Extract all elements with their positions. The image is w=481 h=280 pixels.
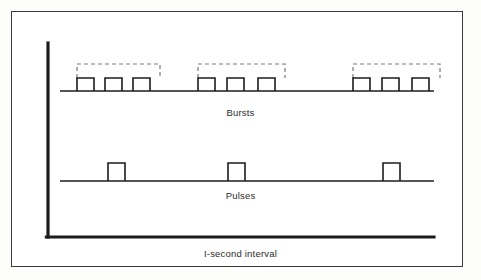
single-pulse bbox=[108, 163, 125, 181]
pulses-label: Pulses bbox=[0, 190, 481, 201]
burst-pulse bbox=[198, 78, 215, 91]
pulses-trace bbox=[60, 163, 434, 181]
bursts-trace bbox=[60, 64, 440, 91]
burst-envelope-bracket bbox=[353, 64, 440, 78]
burst-pulse bbox=[133, 78, 150, 91]
burst-pulse bbox=[412, 78, 429, 91]
burst-pulse bbox=[353, 78, 370, 91]
single-pulse bbox=[228, 163, 245, 181]
figure-root: Bursts Pulses I-second interval bbox=[0, 0, 481, 280]
burst-pulse bbox=[77, 78, 94, 91]
single-pulse bbox=[383, 163, 400, 181]
waveform-diagram bbox=[0, 0, 481, 280]
burst-pulse bbox=[382, 78, 399, 91]
interval-caption: I-second interval bbox=[0, 248, 481, 259]
burst-pulse bbox=[105, 78, 122, 91]
bursts-label: Bursts bbox=[0, 107, 481, 118]
burst-envelope-bracket bbox=[77, 64, 160, 78]
axis-group bbox=[46, 43, 434, 237]
burst-pulse bbox=[258, 78, 275, 91]
burst-pulse bbox=[227, 78, 244, 91]
burst-envelope-bracket bbox=[198, 64, 285, 78]
